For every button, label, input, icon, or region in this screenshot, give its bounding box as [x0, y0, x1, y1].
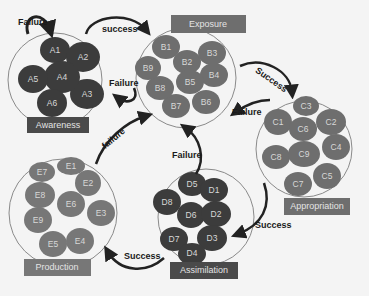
group-appropriation: C3 C1 C6 C2 C4 C8 C9 C5 C7 Appropriation: [256, 96, 352, 215]
svg-text:D1: D1: [209, 185, 220, 195]
node-b3: B3: [198, 41, 226, 65]
node-b5: B5: [176, 70, 204, 94]
node-d6: D6: [177, 202, 205, 228]
svg-text:E1: E1: [66, 161, 77, 171]
svg-text:D3: D3: [207, 233, 218, 243]
diagram-canvas: A1 A2 A3 A4 A5 A6 Awareness B1 B2 B3 B4 …: [0, 0, 369, 296]
edge-assimilation-to-production-success: Success: [108, 251, 164, 269]
svg-text:A1: A1: [50, 45, 61, 55]
node-d4: D4: [178, 243, 206, 265]
group-label: Assimilation: [180, 265, 228, 275]
node-e6: E6: [57, 191, 85, 217]
svg-text:B7: B7: [171, 101, 182, 111]
svg-text:A4: A4: [57, 72, 68, 82]
node-a6: A6: [37, 89, 67, 117]
svg-text:C3: C3: [301, 101, 312, 111]
svg-text:D6: D6: [186, 210, 197, 220]
node-e3: E3: [87, 200, 115, 226]
svg-text:Success: Success: [255, 220, 292, 230]
node-a5: A5: [18, 65, 48, 93]
svg-text:B4: B4: [209, 70, 220, 80]
node-e9: E9: [24, 207, 52, 233]
svg-text:C6: C6: [298, 124, 309, 134]
svg-text:E6: E6: [66, 199, 77, 209]
svg-text:Failure: Failure: [109, 78, 139, 88]
svg-text:A6: A6: [47, 98, 58, 108]
edge-appropriation-to-exposure-failure: Failure: [232, 100, 270, 117]
svg-text:B1: B1: [161, 42, 172, 52]
svg-text:C8: C8: [271, 152, 282, 162]
edge-assimilation-to-exposure-failure: Failure: [172, 128, 202, 174]
svg-text:B5: B5: [185, 77, 196, 87]
edge-exposure-to-appropriation-success: Success: [240, 63, 292, 95]
svg-text:B2: B2: [182, 57, 193, 67]
svg-text:A2: A2: [78, 52, 89, 62]
svg-text:Success: Success: [254, 65, 290, 94]
svg-text:E4: E4: [75, 236, 86, 246]
svg-text:C2: C2: [326, 117, 337, 127]
group-label: Production: [35, 262, 78, 272]
edge-exposure-to-awareness-failure: Failure: [109, 78, 139, 101]
svg-text:E9: E9: [33, 215, 44, 225]
svg-text:B9: B9: [143, 63, 154, 73]
svg-text:E8: E8: [35, 190, 46, 200]
svg-text:A5: A5: [28, 74, 39, 84]
svg-text:failure: failure: [100, 126, 127, 151]
group-exposure: B1 B2 B3 B4 B5 B6 B7 B8 B9 Exposure: [135, 15, 246, 128]
svg-text:Success: Success: [124, 251, 161, 261]
svg-text:E5: E5: [48, 239, 59, 249]
svg-text:D7: D7: [169, 234, 180, 244]
group-assimilation: D5 D1 D8 D6 D2 D7 D3 D4 Assimilation: [153, 169, 254, 279]
node-a1: A1: [40, 37, 70, 63]
node-d1: D1: [200, 178, 228, 202]
svg-text:E7: E7: [37, 167, 48, 177]
node-c2: C2: [316, 109, 346, 135]
node-e4: E4: [66, 228, 94, 254]
svg-text:C7: C7: [293, 179, 304, 189]
group-label: Awareness: [36, 120, 81, 130]
group-label: Appropriation: [290, 201, 344, 211]
node-b4: B4: [200, 63, 228, 87]
svg-text:C4: C4: [331, 142, 342, 152]
node-c1: C1: [264, 109, 292, 135]
node-c4: C4: [322, 134, 350, 160]
node-e7: E7: [29, 162, 55, 182]
node-e5: E5: [39, 231, 67, 257]
node-c7: C7: [284, 172, 312, 196]
svg-text:Failure: Failure: [18, 17, 48, 27]
node-d8: D8: [153, 189, 181, 215]
node-e8: E8: [25, 182, 55, 208]
node-b6: B6: [192, 90, 220, 114]
edge-production-to-exposure-failure: failure: [96, 116, 146, 164]
svg-text:B6: B6: [201, 97, 212, 107]
group-production: E7 E1 E2 E8 E6 E3 E9 E5 E4 Production: [9, 157, 117, 276]
node-c9: C9: [288, 141, 320, 167]
svg-text:C5: C5: [322, 171, 333, 181]
node-b9: B9: [135, 56, 161, 80]
svg-text:success: success: [102, 24, 138, 34]
svg-text:E3: E3: [96, 208, 107, 218]
node-e2: E2: [75, 170, 101, 196]
svg-text:E2: E2: [83, 178, 94, 188]
node-c8: C8: [262, 145, 290, 169]
edge-awareness-self-failure: Failure: [18, 17, 50, 34]
edge-awareness-to-exposure-success: success: [86, 18, 146, 34]
svg-text:Failure: Failure: [232, 107, 262, 117]
svg-text:C9: C9: [299, 149, 310, 159]
svg-text:A3: A3: [82, 89, 93, 99]
svg-text:B3: B3: [207, 48, 218, 58]
svg-text:D8: D8: [162, 197, 173, 207]
node-c5: C5: [313, 163, 341, 189]
node-d2: D2: [201, 201, 231, 227]
svg-text:D4: D4: [187, 248, 198, 258]
node-c6: C6: [289, 117, 317, 141]
svg-text:C1: C1: [273, 117, 284, 127]
group-awareness: A1 A2 A3 A4 A5 A6 Awareness: [8, 33, 104, 133]
node-a4: A4: [44, 61, 80, 93]
svg-text:B8: B8: [155, 83, 166, 93]
svg-text:D5: D5: [187, 179, 198, 189]
svg-text:D2: D2: [211, 209, 222, 219]
node-c3: C3: [293, 96, 319, 116]
group-label: Exposure: [189, 19, 227, 29]
svg-text:Failure: Failure: [172, 150, 202, 160]
